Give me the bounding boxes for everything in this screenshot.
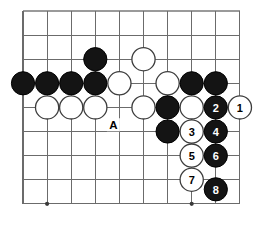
point-labels: A <box>107 118 120 131</box>
stone-black <box>60 72 83 95</box>
stone-white <box>36 96 59 119</box>
stone-black <box>84 72 107 95</box>
stone-move-number: 3 <box>189 126 195 138</box>
stone-move-number: 6 <box>213 150 219 162</box>
stone-black-4: 4 <box>204 120 227 143</box>
stone-body <box>132 96 155 119</box>
point-label-a: A <box>109 119 117 131</box>
stone-black-2: 2 <box>204 96 227 119</box>
stone-body <box>84 96 107 119</box>
stone-black <box>84 48 107 71</box>
go-diagram: A 21345678 <box>0 0 254 236</box>
stone-body <box>36 96 59 119</box>
stone-move-number: 2 <box>213 102 219 114</box>
stone-white-5: 5 <box>180 144 203 167</box>
stone-black <box>180 72 203 95</box>
stone-body <box>156 72 179 95</box>
stone-black-6: 6 <box>204 144 227 167</box>
stone-white <box>132 48 155 71</box>
stone-body <box>180 72 203 95</box>
stone-white <box>108 72 131 95</box>
stone-black <box>36 72 59 95</box>
star-point <box>45 202 49 206</box>
stone-white <box>156 72 179 95</box>
stone-black <box>11 72 34 95</box>
stone-body <box>180 96 203 119</box>
stone-body <box>132 48 155 71</box>
go-board: A 21345678 <box>0 0 254 236</box>
stone-body <box>60 72 83 95</box>
stone-white <box>180 96 203 119</box>
stone-body <box>156 96 179 119</box>
stone-black <box>156 120 179 143</box>
stone-move-number: 8 <box>213 184 219 196</box>
stone-move-number: 7 <box>189 174 195 186</box>
stone-move-number: 4 <box>213 126 220 138</box>
stone-white-3: 3 <box>180 120 203 143</box>
stone-white <box>132 96 155 119</box>
stone-move-number: 1 <box>237 102 243 114</box>
stone-black-8: 8 <box>204 178 227 201</box>
stone-body <box>108 72 131 95</box>
stone-move-number: 5 <box>189 150 195 162</box>
stone-white-1: 1 <box>228 96 251 119</box>
stone-white <box>84 96 107 119</box>
stone-body <box>60 96 83 119</box>
stone-body <box>84 48 107 71</box>
stone-body <box>84 72 107 95</box>
stone-body <box>156 120 179 143</box>
stone-black <box>204 72 227 95</box>
stone-body <box>36 72 59 95</box>
stone-white-7: 7 <box>180 168 203 191</box>
stone-black <box>156 96 179 119</box>
stone-body <box>204 72 227 95</box>
stone-body <box>11 72 34 95</box>
star-point <box>190 202 194 206</box>
stone-white <box>60 96 83 119</box>
